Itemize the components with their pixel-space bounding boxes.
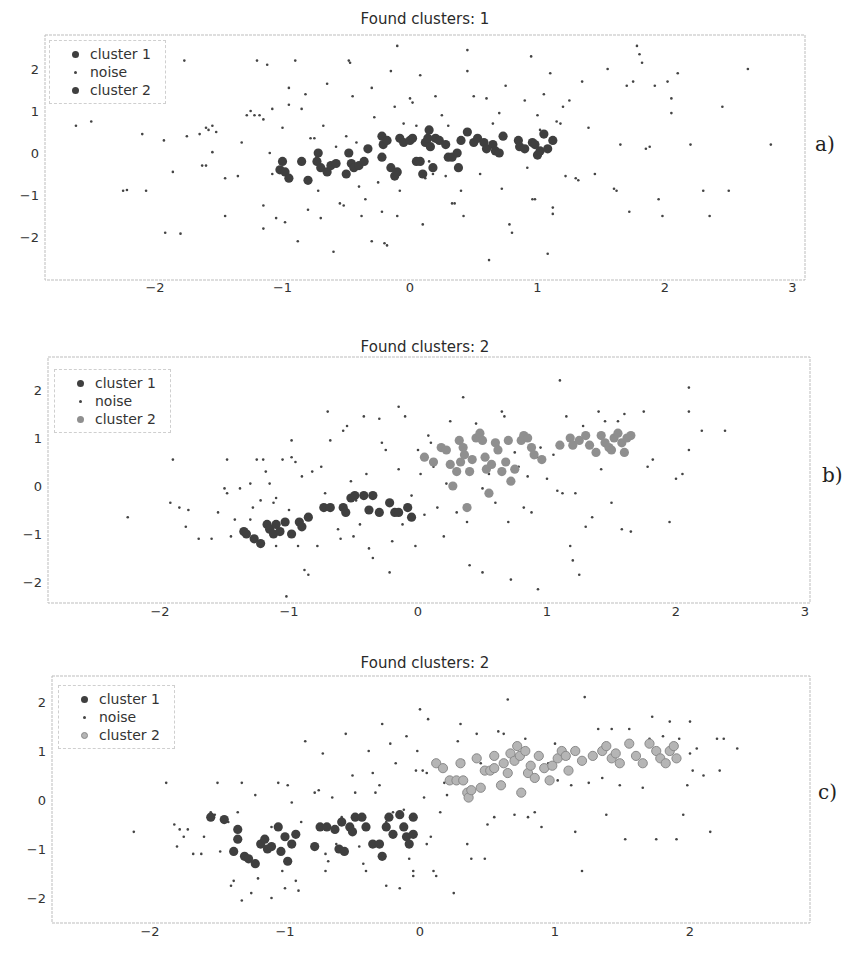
cluster-2-point xyxy=(615,759,624,768)
cluster-2-point xyxy=(669,742,678,751)
noise-point xyxy=(403,809,406,812)
noise-point xyxy=(415,769,418,772)
panel-label-c: c) xyxy=(818,780,837,804)
scatter-plot-c: −2−1012−2−1012 xyxy=(0,0,859,956)
cluster-1-point xyxy=(276,847,285,856)
noise-point xyxy=(394,762,397,765)
noise-point xyxy=(610,728,613,731)
noise-point xyxy=(351,774,354,777)
noise-point xyxy=(651,715,654,718)
noise-point xyxy=(250,892,253,895)
noise-point xyxy=(176,845,179,848)
cluster-2-point xyxy=(645,739,654,748)
noise-point xyxy=(554,742,557,745)
noise-point xyxy=(540,826,543,829)
legend-label: noise xyxy=(99,709,136,725)
cluster-2-point xyxy=(456,759,465,768)
noise-point xyxy=(475,733,478,736)
noise-point xyxy=(435,875,438,878)
noise-point xyxy=(423,796,426,799)
legend-item-noise: noise xyxy=(69,708,160,726)
noise-point xyxy=(284,887,287,890)
noise-point xyxy=(203,835,206,838)
noise-point xyxy=(367,750,370,753)
cluster-2-point xyxy=(545,776,554,785)
noise-point xyxy=(324,853,327,856)
noise-point xyxy=(736,747,739,750)
noise-point xyxy=(619,784,622,787)
noise-point xyxy=(493,816,496,819)
legend-item-cluster-1: cluster 1 xyxy=(69,690,160,708)
noise-point xyxy=(385,884,388,887)
legend-label: cluster 2 xyxy=(99,727,160,743)
noise-point xyxy=(675,838,678,841)
noise-point xyxy=(421,769,424,772)
noise-point xyxy=(695,747,698,750)
noise-point xyxy=(187,828,190,831)
noise-point xyxy=(682,813,685,816)
cluster-2-point xyxy=(490,751,499,760)
noise-point xyxy=(378,784,381,787)
noise-point xyxy=(718,769,721,772)
noise-point xyxy=(192,853,195,856)
noise-point xyxy=(200,853,203,856)
noise-point xyxy=(232,880,235,883)
cluster-1-point xyxy=(384,813,393,822)
noise-point xyxy=(277,782,280,785)
noise-point xyxy=(533,811,536,814)
noise-point xyxy=(322,752,325,755)
noise-point xyxy=(527,816,530,819)
noise-point xyxy=(165,782,168,785)
cluster-1-marker-icon xyxy=(81,696,88,703)
noise-point xyxy=(381,723,384,726)
noise-point xyxy=(236,811,239,814)
cluster-2-point xyxy=(513,742,522,751)
noise-point xyxy=(182,835,185,838)
cluster-1-point xyxy=(399,822,408,831)
cluster-1-point xyxy=(409,830,418,839)
noise-point xyxy=(173,823,176,826)
cluster-1-point xyxy=(233,825,242,834)
y-tick-label: −1 xyxy=(27,842,46,857)
cluster-1-point xyxy=(322,822,331,831)
noise-point xyxy=(257,877,260,880)
noise-point xyxy=(691,769,694,772)
cluster-2-point xyxy=(577,756,586,765)
noise-point xyxy=(457,740,460,743)
noise-point xyxy=(452,892,455,895)
noise-point xyxy=(486,823,489,826)
cluster-1-point xyxy=(274,822,283,831)
noise-point xyxy=(412,870,415,873)
legend-c: cluster 1 noise cluster 2 xyxy=(58,685,175,749)
noise-point xyxy=(327,860,330,863)
cluster-2-marker-icon xyxy=(81,732,88,739)
x-tick-label: 2 xyxy=(686,924,694,939)
x-tick-label: 0 xyxy=(416,924,424,939)
cluster-1-point xyxy=(375,840,384,849)
noise-point xyxy=(133,831,136,834)
cluster-2-point xyxy=(571,746,580,755)
noise-point xyxy=(439,811,442,814)
noise-point xyxy=(412,875,415,878)
cluster-1-point xyxy=(251,859,260,868)
cluster-2-point xyxy=(459,776,468,785)
cluster-1-point xyxy=(267,842,276,851)
cluster-1-point xyxy=(337,817,346,826)
noise-point xyxy=(419,708,422,711)
legend-item-cluster-2: cluster 2 xyxy=(69,726,160,744)
noise-point xyxy=(324,870,327,873)
cluster-2-point xyxy=(534,751,543,760)
cluster-2-point xyxy=(526,761,535,770)
noise-point xyxy=(344,733,347,736)
noise-point xyxy=(270,826,273,829)
cluster-2-point xyxy=(517,788,526,797)
cluster-1-point xyxy=(233,835,242,844)
noise-point xyxy=(331,796,334,799)
noise-point xyxy=(689,752,692,755)
noise-point xyxy=(304,740,307,743)
noise-point xyxy=(281,870,284,873)
noise-point xyxy=(702,774,705,777)
noise-point xyxy=(317,789,320,792)
noise-point xyxy=(416,750,419,753)
noise-point xyxy=(427,718,430,721)
